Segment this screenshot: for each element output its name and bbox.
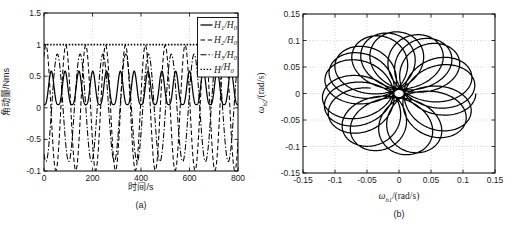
x-tick-label: 0 [42, 173, 47, 183]
y-tick-label: -0.15 [281, 168, 301, 178]
y-axis-label-b: ωh2/(rad/s) [256, 73, 268, 114]
figure-canvas: 02004006008001.510.50-0.5-0.1 时间/s 角动量/N… [0, 0, 514, 225]
y-tick-label: -0.1 [26, 166, 41, 176]
y-tick-label: 0.5 [29, 71, 41, 81]
y-tick-label: 1 [36, 40, 41, 50]
x-axis-label-b: ωh1/(rad/s) [379, 191, 420, 203]
x-tick-label: 800 [231, 173, 245, 183]
legend-panel-a: H1/H0 H2/H0 H3/H0 H/H0 [198, 18, 239, 78]
y-tick-label: 0.05 [283, 62, 300, 72]
y-axis-label-a: 角动量/Nms [0, 68, 11, 116]
x-axis-label-a: 时间/s [128, 181, 154, 192]
panel-sublabel-b: (b) [394, 209, 405, 219]
figure-angular-momentum-and-phase-portrait: 02004006008001.510.50-0.5-0.1 时间/s 角动量/N… [0, 0, 514, 225]
y-tick-label: 1.5 [29, 8, 41, 18]
x-tick-label: 0.15 [487, 175, 504, 185]
y-tick-label: 0 [36, 103, 41, 113]
x-tick-label: 0 [397, 175, 402, 185]
x-tick-label: 600 [182, 173, 196, 183]
y-tick-label: 0.15 [283, 9, 300, 19]
y-tick-label: -0.1 [285, 142, 300, 152]
x-tick-label: -0.1 [328, 175, 343, 185]
x-tick-label: 200 [85, 173, 99, 183]
y-tick-label: 0 [295, 89, 300, 99]
x-tick-label: 0.1 [457, 175, 469, 185]
y-tick-label: -0.05 [281, 115, 301, 125]
panel-sublabel-a: (a) [136, 200, 147, 210]
y-tick-label: -0.5 [26, 134, 41, 144]
x-tick-label: -0.05 [357, 175, 377, 185]
x-tick-label: 0.05 [423, 175, 440, 185]
y-tick-label: 0.1 [288, 36, 300, 46]
